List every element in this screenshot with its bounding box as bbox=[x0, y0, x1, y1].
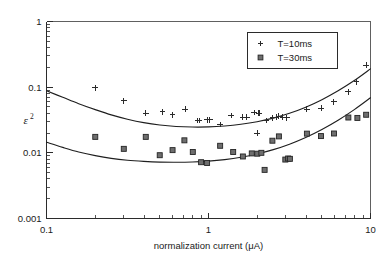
x-tick-label: 1 bbox=[206, 224, 211, 235]
x-tick-label: 0.1 bbox=[40, 224, 53, 235]
data-point-square bbox=[304, 131, 309, 136]
data-point-plus bbox=[270, 115, 276, 121]
data-point-plus bbox=[256, 110, 262, 116]
data-point-plus bbox=[251, 110, 257, 116]
data-point-plus bbox=[331, 99, 337, 105]
data-point-square bbox=[287, 156, 292, 161]
data-point-square bbox=[319, 134, 324, 139]
data-point-square bbox=[121, 146, 126, 151]
x-tick-label: 10 bbox=[365, 224, 376, 235]
data-point-square bbox=[218, 143, 223, 148]
data-point-square bbox=[355, 115, 360, 120]
data-point-square bbox=[190, 149, 195, 154]
data-point-plus bbox=[284, 115, 290, 121]
svg-text:ε: ε bbox=[24, 114, 29, 126]
chart-legend[interactable]: T=10msT=30ms bbox=[248, 33, 338, 69]
data-point-plus bbox=[182, 106, 188, 112]
y-tick-label: 0.1 bbox=[28, 82, 41, 93]
data-point-square bbox=[331, 131, 336, 136]
svg-text:2: 2 bbox=[30, 112, 34, 121]
data-point-square bbox=[143, 134, 148, 139]
data-point-plus bbox=[244, 114, 250, 120]
data-point-plus bbox=[170, 112, 176, 118]
data-point-plus bbox=[92, 85, 98, 91]
data-point-plus bbox=[254, 130, 260, 136]
data-point-square bbox=[364, 112, 369, 117]
data-point-square bbox=[249, 151, 254, 156]
x-axis-title: normalization current (μA) bbox=[154, 240, 263, 251]
legend-marker-square bbox=[258, 55, 263, 60]
chart-figure: 0.11100.0010.010.11normalization current… bbox=[0, 0, 389, 263]
data-point-square bbox=[262, 167, 267, 172]
data-point-square bbox=[93, 134, 98, 139]
data-point-plus bbox=[276, 113, 282, 119]
fit-curve-series-1 bbox=[47, 69, 371, 127]
data-point-square bbox=[231, 149, 236, 154]
y-tick-label: 0.001 bbox=[18, 213, 42, 224]
data-point-square bbox=[182, 138, 187, 143]
data-point-plus bbox=[273, 114, 279, 120]
data-point-plus bbox=[160, 109, 166, 115]
data-point-square bbox=[199, 160, 204, 165]
data-point-square bbox=[240, 154, 245, 159]
data-point-plus bbox=[363, 62, 369, 68]
data-point-plus bbox=[207, 117, 213, 123]
fit-curve-series-2 bbox=[47, 98, 371, 163]
data-point-square bbox=[276, 134, 281, 139]
data-point-square bbox=[205, 161, 210, 166]
data-points bbox=[92, 62, 369, 172]
data-point-plus bbox=[318, 105, 324, 111]
data-point-square bbox=[346, 115, 351, 120]
chart-plot-area: 0.11100.0010.010.11normalization current… bbox=[0, 0, 389, 263]
data-point-plus bbox=[345, 89, 351, 95]
legend-label: T=30ms bbox=[278, 52, 313, 63]
data-point-plus bbox=[143, 110, 149, 116]
data-point-square bbox=[170, 148, 175, 153]
y-tick-label: 1 bbox=[36, 16, 41, 27]
data-point-plus bbox=[121, 98, 127, 104]
y-tick-label: 0.01 bbox=[23, 147, 42, 158]
fit-curves bbox=[47, 69, 371, 162]
y-axis-title: ε2 bbox=[24, 112, 35, 126]
legend-label: T=10ms bbox=[278, 38, 313, 49]
data-point-plus bbox=[264, 118, 270, 124]
data-point-plus bbox=[228, 113, 234, 119]
data-point-square bbox=[270, 138, 275, 143]
data-point-square bbox=[157, 153, 162, 158]
data-point-square bbox=[259, 150, 264, 155]
